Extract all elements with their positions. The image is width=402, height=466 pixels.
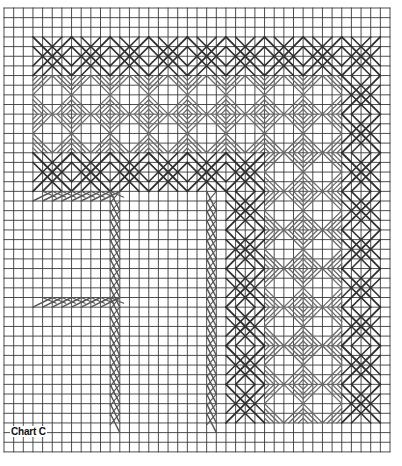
needlepoint-chart (0, 0, 402, 466)
herringbone-stitches (33, 191, 216, 432)
chart-label: Chart C (10, 426, 47, 437)
